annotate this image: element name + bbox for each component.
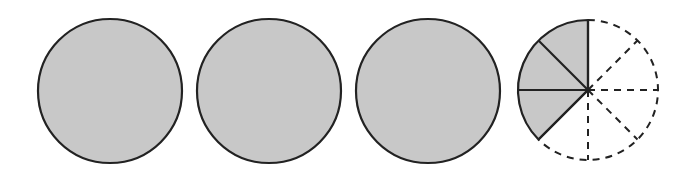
whole-circle-1 [38, 19, 182, 163]
fraction-figure [0, 0, 692, 173]
fraction-diagram [0, 0, 692, 173]
whole-circle-3 [356, 19, 500, 163]
whole-circle-2 [197, 19, 341, 163]
dashed-radius-5 [588, 90, 637, 139]
dashed-radius-7 [588, 41, 637, 90]
